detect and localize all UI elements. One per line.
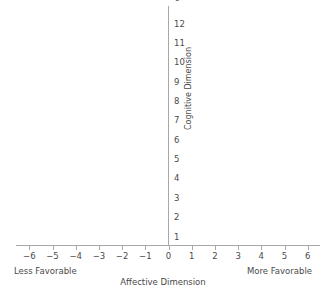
x-axis-tick [122,246,123,250]
x-axis-tick [238,246,239,250]
x-axis-tick [169,246,170,250]
y-axis-tick-label: 8 [174,97,179,106]
y-axis-title: Cognitive Dimension [184,41,193,137]
x-axis-tick [145,246,146,250]
x-axis-tick [192,246,193,250]
x-axis-tick [308,246,309,250]
x-axis-tick [76,246,77,250]
chart-title: Affective Versus Cognitive Scales [0,0,326,1]
y-axis-tick-label: 12 [174,20,185,29]
y-axis-tick-label: 5 [174,155,179,164]
y-axis-tick-label: 2 [174,213,179,222]
x-axis-tick [261,246,262,250]
y-axis-tick-label: 9 [174,78,179,87]
y-axis-tick-label: 4 [174,174,179,183]
x-axis-tick [215,246,216,250]
y-axis-tick-label: 7 [174,116,179,125]
x-axis-tick [285,246,286,250]
x-axis-tick [29,246,30,250]
x-axis-tick [53,246,54,250]
chart-container: Affective Versus Cognitive Scales −6−5−4… [0,0,326,294]
less-favorable-annotation: Less Favorable [14,266,77,276]
x-axis-title: Affective Dimension [0,277,326,287]
more-favorable-annotation: More Favorable [247,266,312,276]
x-axis-tick-label: 6 [293,251,323,261]
y-axis-line [168,6,169,245]
y-axis-tick-label: 6 [174,136,179,145]
y-axis-tick-label: 1 [174,233,179,242]
x-axis-line [16,245,320,246]
x-axis-tick [99,246,100,250]
y-axis-tick-label: 3 [174,194,179,203]
